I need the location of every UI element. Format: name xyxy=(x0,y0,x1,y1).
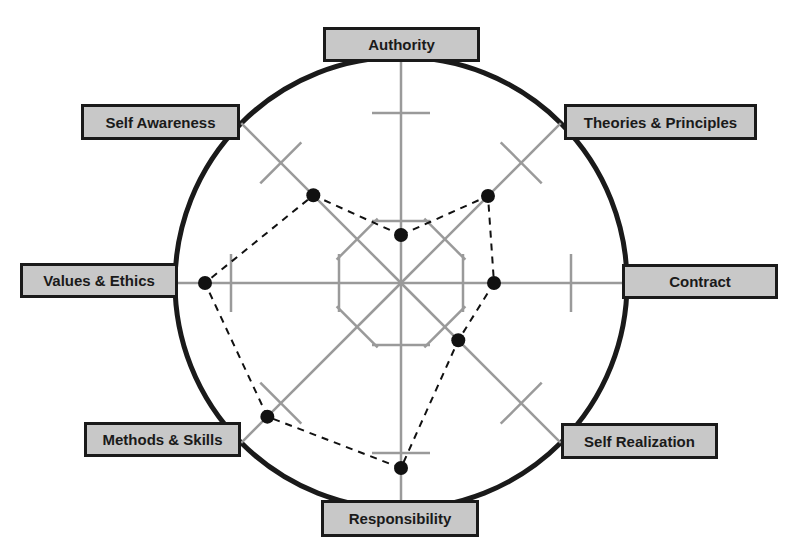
label-responsibility: Responsibility xyxy=(321,500,479,537)
axis-line-self-realization xyxy=(401,283,561,443)
label-self-realization: Self Realization xyxy=(561,423,718,459)
radar-diagram: Authority Theories & Principles Contract… xyxy=(0,0,796,558)
label-contract: Contract xyxy=(622,264,778,299)
data-point-values xyxy=(198,276,212,290)
data-point-contract xyxy=(487,276,501,290)
label-theories-principles: Theories & Principles xyxy=(564,104,757,140)
label-self-awareness: Self Awareness xyxy=(81,104,240,140)
data-point-self-realization xyxy=(451,333,465,347)
data-point-theories xyxy=(481,189,495,203)
label-authority: Authority xyxy=(323,27,480,62)
axes-group xyxy=(175,57,627,509)
axis-line-theories xyxy=(401,123,561,283)
data-point-self-awareness xyxy=(306,188,320,202)
data-point-responsibility xyxy=(394,461,408,475)
axis-line-self-awareness xyxy=(241,123,401,283)
label-values-ethics: Values & Ethics xyxy=(20,263,178,298)
label-methods-skills: Methods & Skills xyxy=(84,422,241,457)
data-point-methods xyxy=(260,410,274,424)
data-point-authority xyxy=(394,228,408,242)
